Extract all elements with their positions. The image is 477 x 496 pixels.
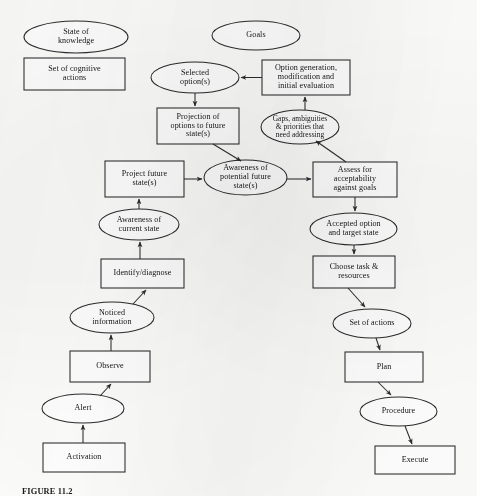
- node-alert: [42, 394, 124, 423]
- node-plan: [345, 352, 423, 382]
- node-procedure: [360, 397, 437, 426]
- edge-choose-task-to-set-of-actions: [348, 288, 365, 307]
- node-set-of-cognitive-actions: [24, 58, 125, 90]
- node-set-of-actions: [333, 309, 411, 338]
- node-activation: [43, 443, 125, 472]
- edge-alert-to-observe: [100, 384, 111, 396]
- edge-assess-to-gaps: [316, 141, 346, 162]
- edge-set-of-actions-to-plan: [376, 338, 380, 350]
- node-observe: [70, 351, 150, 382]
- edge-plan-to-procedure: [378, 382, 391, 395]
- node-project-future-states: [105, 161, 184, 197]
- node-goals: [212, 21, 300, 50]
- node-projection-of-options: [157, 108, 239, 144]
- node-option-generation: [262, 60, 350, 95]
- node-noticed-information: [70, 302, 154, 333]
- node-gaps-ambiguities: [261, 110, 339, 144]
- node-execute: [375, 446, 455, 474]
- node-choose-task-resources: [313, 256, 395, 288]
- diagram-canvas: [0, 0, 477, 496]
- edge-noticed-information-to-identify-diagnose: [133, 290, 146, 304]
- node-awareness-potential-future-states: [204, 160, 287, 195]
- figure-page: State ofknowledge Set of cognitiveaction…: [0, 0, 477, 496]
- node-selected-options: [151, 62, 239, 93]
- edge-projection-to-awareness-potential: [213, 144, 241, 161]
- node-identify-diagnose: [101, 259, 184, 288]
- node-assess-for-acceptability: [313, 162, 397, 197]
- node-accepted-option: [310, 213, 397, 245]
- edge-procedure-to-execute: [405, 426, 412, 444]
- node-shapes: [24, 21, 455, 474]
- figure-caption: FIGURE 11.2: [22, 487, 452, 496]
- node-state-of-knowledge: [24, 21, 128, 53]
- node-awareness-current-state: [99, 209, 179, 240]
